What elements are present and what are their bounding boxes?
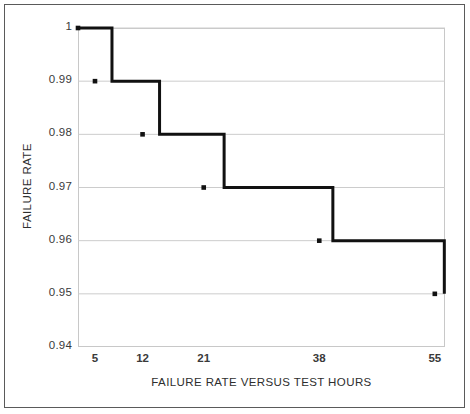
y-tick-label: 0.99 — [49, 73, 72, 85]
plot-area-border — [78, 28, 445, 347]
y-tick-label: 0.95 — [49, 286, 72, 298]
x-tick-label: 38 — [313, 352, 326, 364]
y-tick-label: 0.98 — [49, 126, 72, 138]
y-axis-title: FAILURE RATE — [21, 126, 33, 246]
y-tick-label: 0.96 — [49, 233, 72, 245]
chart-figure: 10.990.980.970.960.950.94 512213855 FAIL… — [0, 0, 470, 414]
y-axis-tick-labels: 10.990.980.970.960.950.94 — [0, 0, 72, 414]
y-tick-label: 0.94 — [49, 339, 72, 351]
x-tick-label: 55 — [428, 352, 441, 364]
x-tick-label: 5 — [92, 352, 98, 364]
y-tick-label: 0.97 — [49, 180, 72, 192]
x-axis-title: FAILURE RATE VERSUS TEST HOURS — [78, 376, 445, 388]
y-tick-label: 1 — [65, 20, 72, 32]
x-tick-label: 21 — [197, 352, 210, 364]
x-tick-label: 12 — [136, 352, 149, 364]
